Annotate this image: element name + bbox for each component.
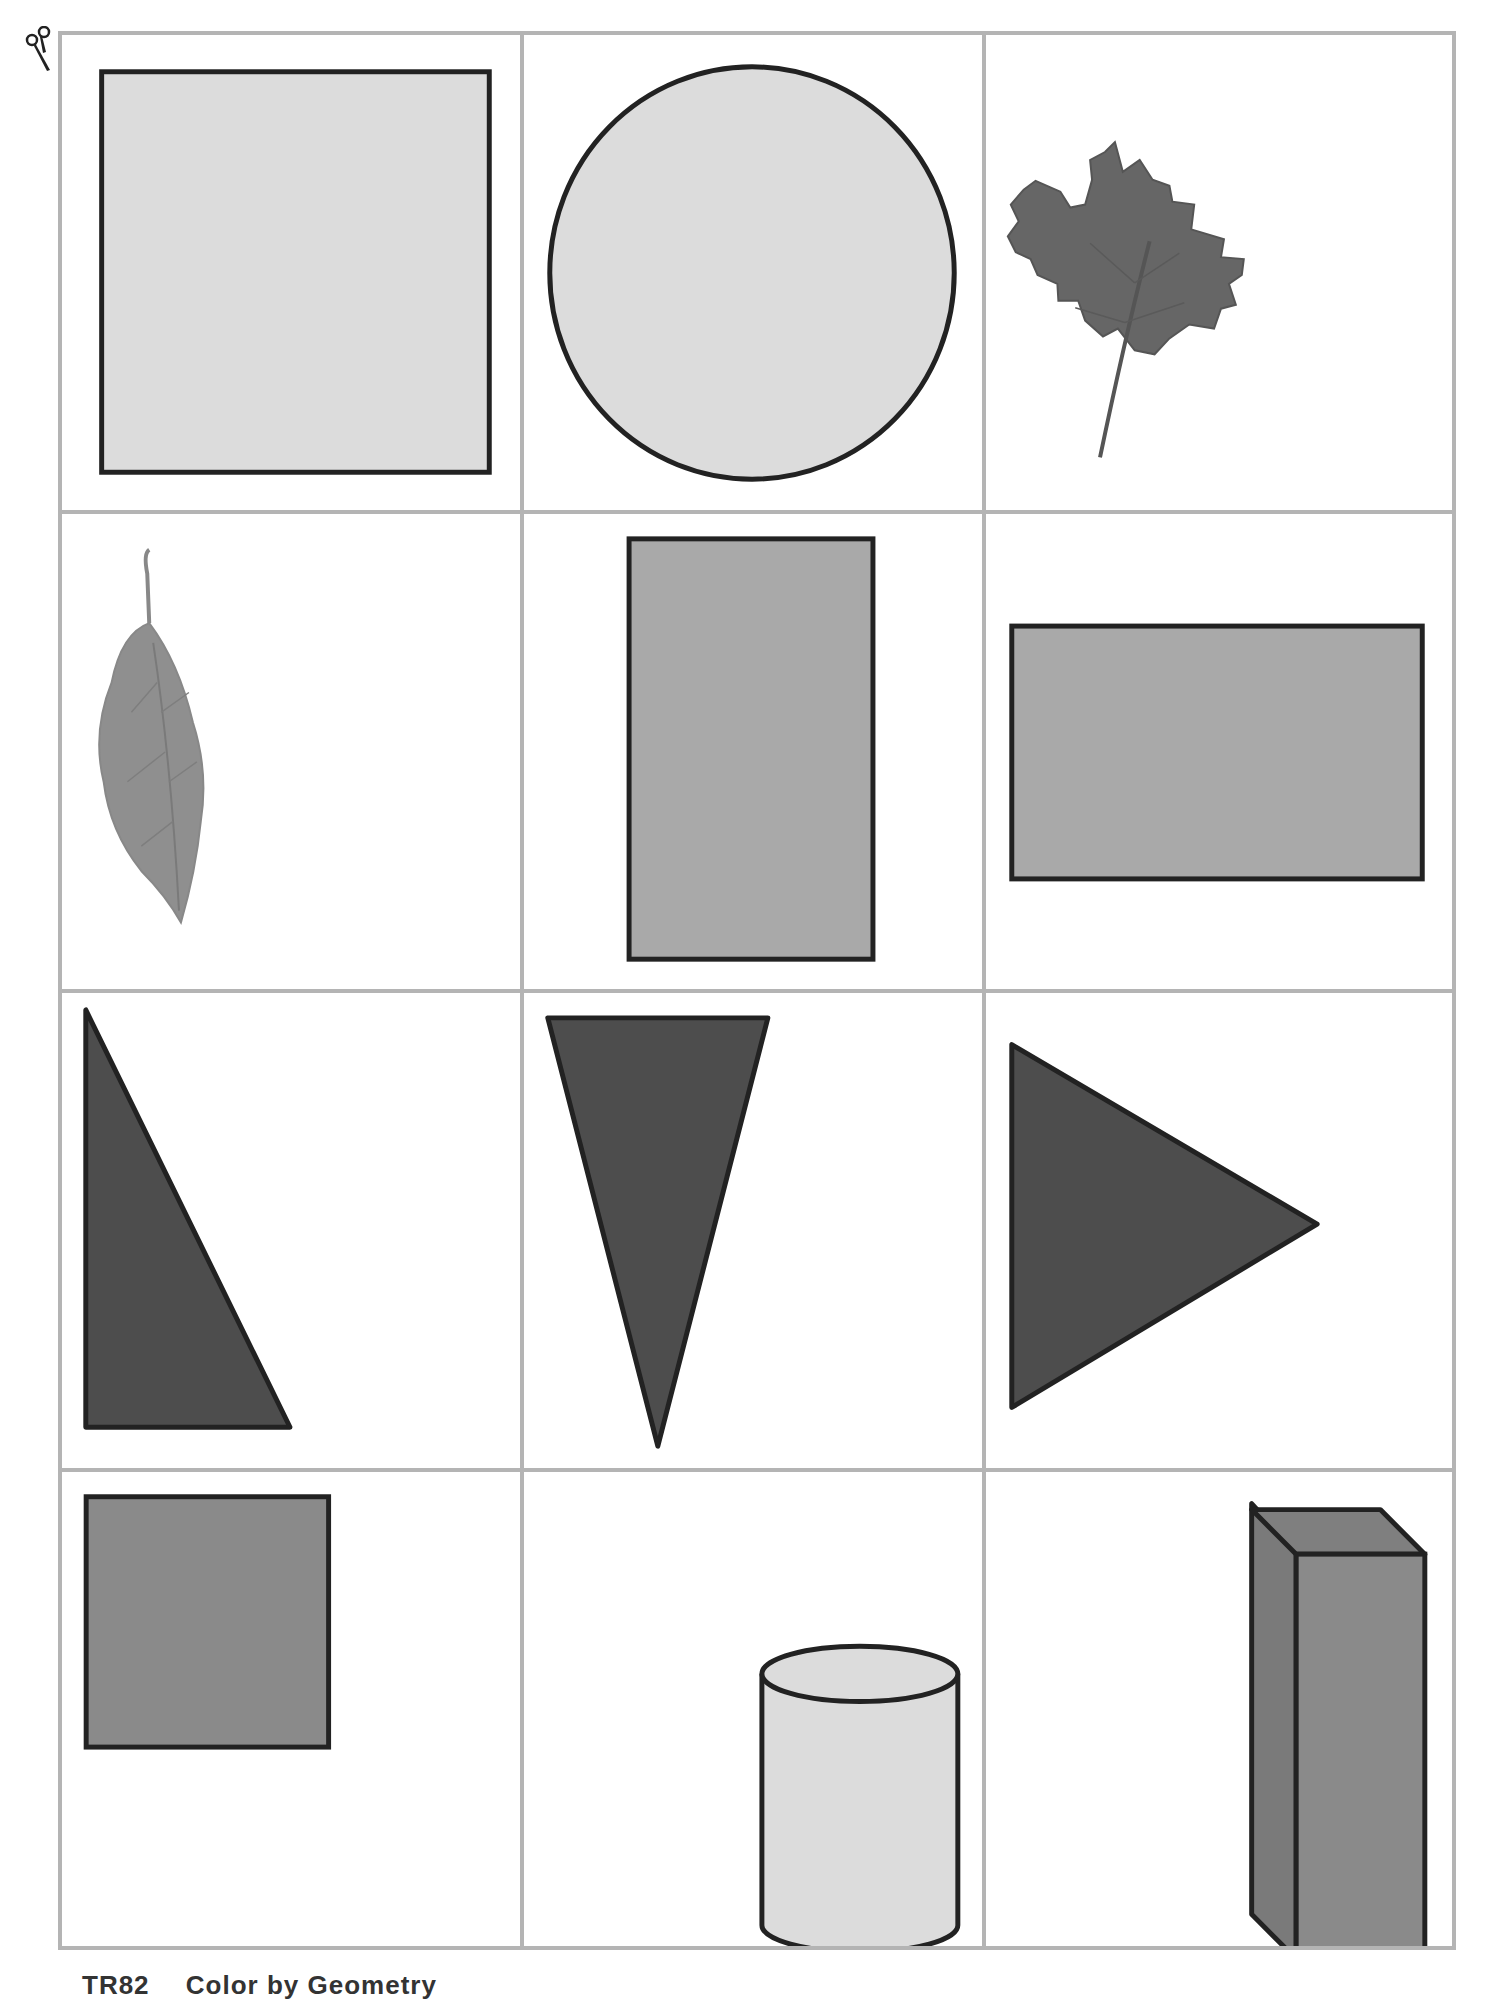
wide-rectangle-shape: [986, 514, 1452, 989]
card-tall-rectangle[interactable]: [524, 514, 986, 993]
rectangular-prism-shape: [986, 1472, 1452, 1946]
card-wide-rectangle[interactable]: [986, 514, 1452, 993]
card-circle[interactable]: [524, 35, 986, 514]
card-oval-leaf[interactable]: [62, 514, 524, 993]
footer-title: Color by Geometry: [186, 1970, 437, 2000]
card-grid: [58, 31, 1456, 1950]
tall-rectangle-shape: [524, 514, 982, 989]
right-triangle-shape: [62, 993, 520, 1468]
card-square-light[interactable]: [62, 35, 524, 514]
card-square-medium[interactable]: [62, 1472, 524, 1946]
footer-code: TR82: [82, 1970, 150, 2000]
card-inverted-triangle[interactable]: [524, 993, 986, 1472]
square-shape: [62, 1472, 520, 1946]
card-right-triangle[interactable]: [62, 993, 524, 1472]
maple-leaf-icon: [986, 35, 1452, 510]
square-shape: [62, 35, 520, 510]
cylinder-shape: [524, 1472, 982, 1946]
circle-shape: [524, 35, 982, 510]
card-right-pointing-triangle[interactable]: [986, 993, 1452, 1472]
right-pointing-triangle-shape: [986, 993, 1452, 1468]
inverted-triangle-shape: [524, 993, 982, 1468]
oval-leaf-icon: [62, 514, 520, 989]
card-cylinder[interactable]: [524, 1472, 986, 1946]
page-footer: TR82 Color by Geometry: [82, 1970, 465, 2001]
card-rectangular-prism[interactable]: [986, 1472, 1452, 1946]
scissors-icon: [24, 26, 60, 76]
card-maple-leaf[interactable]: [986, 35, 1452, 514]
